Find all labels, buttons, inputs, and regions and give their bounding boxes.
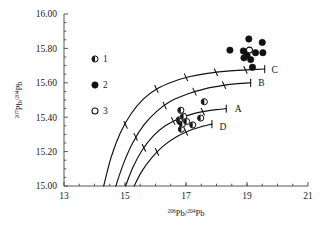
data-point-series-3-open-circle bbox=[246, 47, 252, 53]
data-point-series-2-filled-circle bbox=[252, 50, 258, 56]
legend-marker-2-filled-circle bbox=[92, 82, 98, 88]
curve-label-B: B bbox=[258, 78, 264, 88]
y-tick-label: 15.80 bbox=[36, 44, 58, 54]
legend-label-2: 2 bbox=[103, 80, 108, 90]
plot-canvas: CBAD 15.0015.2015.4015.6015.8016.0013151… bbox=[0, 0, 326, 235]
x-tick-label: 15 bbox=[120, 191, 130, 201]
base-pb: Pb/ bbox=[176, 208, 188, 218]
axes bbox=[64, 14, 308, 186]
legend-label-3: 3 bbox=[103, 106, 108, 116]
curve-labels: CBAD bbox=[220, 65, 278, 132]
curve-label-D: D bbox=[220, 122, 227, 132]
x-tick-label: 19 bbox=[242, 191, 252, 201]
sup-204: 204 bbox=[14, 90, 20, 99]
base-pb2: Pb bbox=[196, 208, 205, 218]
y-tick-label: 15.00 bbox=[36, 181, 58, 191]
data-point-series-2-filled-circle bbox=[227, 47, 233, 53]
sup-206: 206 bbox=[167, 208, 176, 214]
legend-marker-3-open-circle bbox=[92, 108, 98, 114]
lead-isotope-scatter-figure: CBAD 15.0015.2015.4015.6015.8016.0013151… bbox=[0, 0, 326, 235]
legend-label-1: 1 bbox=[103, 54, 108, 64]
base-pb2: Pb bbox=[14, 81, 24, 90]
growth-curve-D bbox=[134, 124, 212, 186]
y-tick-label: 15.40 bbox=[36, 113, 58, 123]
axis-spines bbox=[64, 14, 308, 186]
data-point-series-2-filled-circle bbox=[247, 56, 253, 62]
tick-labels: 15.0015.2015.4015.6015.8016.001315171921 bbox=[36, 9, 313, 201]
curve-label-A: A bbox=[235, 104, 242, 114]
y-tick-label: 16.00 bbox=[36, 9, 58, 19]
data-point-series-2-filled-circle bbox=[259, 39, 265, 45]
curve-label-C: C bbox=[271, 65, 277, 75]
curve-age-tick bbox=[155, 149, 158, 156]
y-tick-label: 15.20 bbox=[36, 147, 58, 157]
sup-206: 207 bbox=[14, 110, 20, 119]
x-axis-title: 206Pb/204Pb bbox=[167, 208, 204, 218]
x-tick-label: 17 bbox=[181, 191, 191, 201]
x-tick-label: 13 bbox=[59, 191, 69, 201]
data-point-series-2-filled-circle bbox=[246, 36, 252, 42]
legend: 123 bbox=[92, 54, 108, 116]
y-tick-label: 15.60 bbox=[36, 78, 58, 88]
sup-204: 204 bbox=[187, 208, 196, 214]
base-pb: Pb/ bbox=[14, 98, 24, 110]
data-points bbox=[176, 36, 266, 133]
data-point-series-2-filled-circle bbox=[249, 64, 255, 70]
y-axis-title: 207Pb/204Pb bbox=[14, 81, 24, 118]
x-tick-label: 21 bbox=[303, 191, 313, 201]
growth-curve-B bbox=[116, 83, 251, 186]
data-point-series-2-filled-circle bbox=[260, 50, 266, 56]
